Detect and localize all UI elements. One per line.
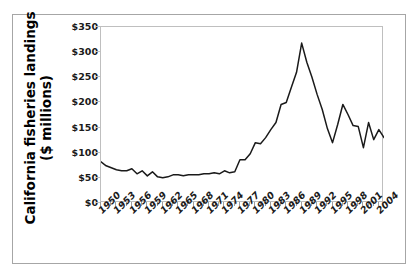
chart-figure: California fisheries landings ($ million… <box>0 0 419 278</box>
y-tick-mark <box>96 177 100 178</box>
y-tick-mark <box>96 152 100 153</box>
line-chart-svg <box>101 27 384 203</box>
y-tick-mark <box>96 127 100 128</box>
y-tick-mark <box>96 101 100 102</box>
y-tick-label: $50 <box>56 171 98 182</box>
y-tick-label: $150 <box>56 121 98 132</box>
y-tick-label: $350 <box>56 21 98 32</box>
y-tick-label: $100 <box>56 146 98 157</box>
y-tick-mark <box>96 51 100 52</box>
data-series-line <box>101 43 384 178</box>
y-tick-mark <box>96 76 100 77</box>
y-axis-tick-labels: $0$50$100$150$200$250$300$350 <box>56 26 98 202</box>
y-tick-label: $0 <box>56 197 98 208</box>
plot-area <box>100 26 383 202</box>
y-tick-label: $250 <box>56 71 98 82</box>
y-tick-mark <box>96 26 100 27</box>
y-tick-label: $300 <box>56 46 98 57</box>
y-tick-label: $200 <box>56 96 98 107</box>
